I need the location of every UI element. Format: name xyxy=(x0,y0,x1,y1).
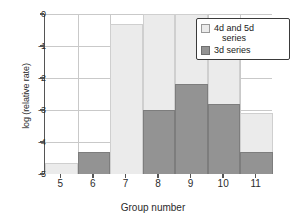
x-tick-mark xyxy=(125,174,126,178)
x-tick-mark xyxy=(157,174,158,178)
bar-4d5d-group-5 xyxy=(45,163,78,174)
x-tick-label-11: 11 xyxy=(241,178,271,189)
bar-3d-group-11 xyxy=(240,152,273,174)
bar-4d5d-group-7 xyxy=(110,24,143,174)
bar-3d-group-10 xyxy=(208,104,241,174)
x-tick-label-6: 6 xyxy=(78,178,108,189)
x-tick-mark xyxy=(190,174,191,178)
x-tick-label-9: 9 xyxy=(176,178,206,189)
chart-legend: 4d and 5d series 3d series xyxy=(196,18,290,60)
y-tick-mark xyxy=(40,109,44,110)
x-axis-label: Group number xyxy=(33,202,273,213)
x-tick-label-5: 5 xyxy=(45,178,75,189)
y-tick-mark xyxy=(40,141,44,142)
y-tick-mark xyxy=(40,173,44,174)
x-tick-mark xyxy=(255,174,256,178)
bar-3d-group-8 xyxy=(143,110,176,174)
y-tick-mark xyxy=(40,13,44,14)
x-tick-label-8: 8 xyxy=(143,178,173,189)
x-tick-mark xyxy=(222,174,223,178)
legend-label-3d-series: 3d series xyxy=(214,45,251,55)
legend-item-4d-5d-series: 4d and 5d series xyxy=(201,23,284,43)
x-tick-label-7: 7 xyxy=(110,178,140,189)
bar-3d-group-9 xyxy=(175,84,208,174)
x-tick-mark xyxy=(60,174,61,178)
x-tick-label-10: 10 xyxy=(208,178,238,189)
legend-swatch-light-icon xyxy=(201,24,210,33)
y-tick-mark xyxy=(40,77,44,78)
y-tick-mark xyxy=(40,45,44,46)
bar-chart: log (relative rate) 0-1-2-3-4-5567891011… xyxy=(0,0,298,221)
legend-item-3d-series: 3d series xyxy=(201,45,284,55)
x-tick-mark xyxy=(92,174,93,178)
legend-label-4d-5d-series: 4d and 5d series xyxy=(214,23,254,43)
bar-3d-group-6 xyxy=(78,152,111,174)
legend-swatch-dark-icon xyxy=(201,46,210,55)
